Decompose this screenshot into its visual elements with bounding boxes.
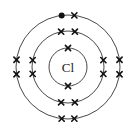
nucleus-label: Cl <box>62 60 75 75</box>
electron-dot-icon <box>59 12 65 18</box>
chloride-ion-diagram: Cl <box>0 0 131 132</box>
